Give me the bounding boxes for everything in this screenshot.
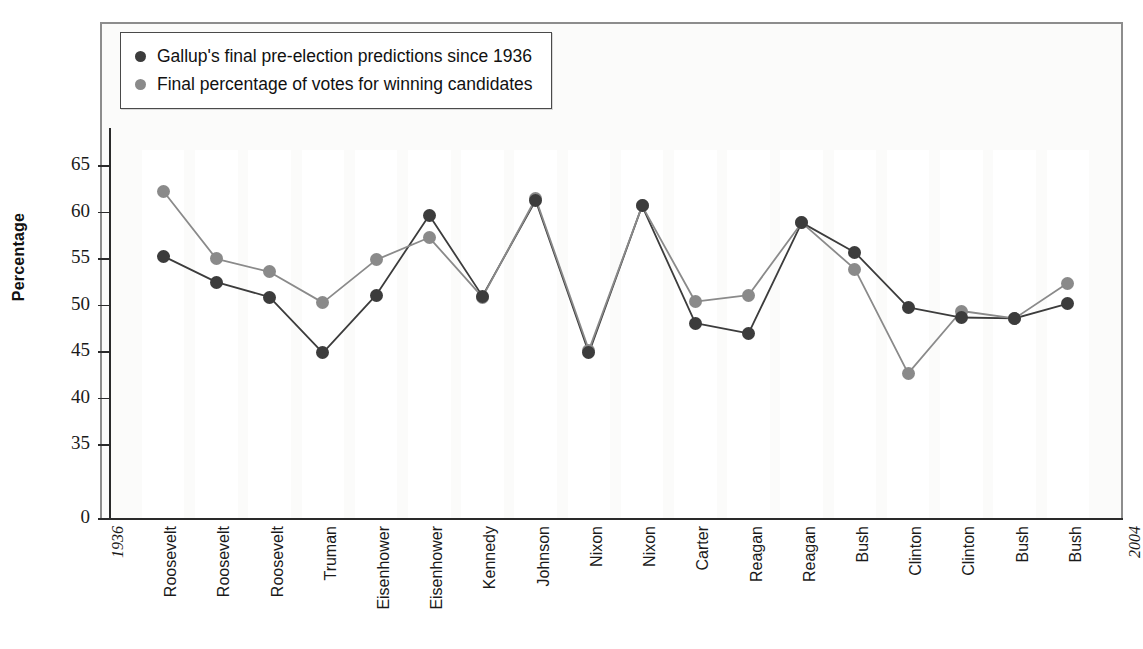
data-point-marker [370,253,383,266]
data-point-marker [210,276,223,289]
data-point-marker [742,327,755,340]
background-stripe [1047,150,1090,518]
x-axis-tick-label: Reagan [748,526,766,649]
x-axis-tick-label: Bush [1067,526,1085,649]
chart-figure: Percentage 035404550556065 1936Roosevelt… [0,0,1143,649]
data-point-marker [1008,312,1021,325]
y-axis-tick-mark [98,305,109,307]
background-stripe [780,150,823,518]
background-stripe [248,150,291,518]
data-point-marker [263,291,276,304]
legend-entry-label: Final percentage of votes for winning ca… [157,74,533,95]
x-axis-tick-label: Roosevelt [269,526,287,649]
x-axis-tick-label: Reagan [801,526,819,649]
x-axis-end-year-label: 2004 [1126,526,1143,649]
x-axis-tick-label: Johnson [535,526,553,649]
legend-entry: Final percentage of votes for winning ca… [135,70,533,98]
y-axis-tick-label: 50 [44,293,90,315]
y-axis-tick-label: 35 [44,432,90,454]
background-stripe [834,150,877,518]
legend-entry-label: Gallup's final pre-election predictions … [157,46,532,67]
chart-legend: Gallup's final pre-election predictions … [120,32,552,109]
background-stripe [887,150,930,518]
data-point-marker [476,290,489,303]
data-point-marker [529,194,542,207]
y-axis-tick-label: 40 [44,386,90,408]
background-stripe [195,150,238,518]
y-axis-line [109,128,111,519]
y-axis-tick-mark [98,518,109,520]
y-axis-tick-mark [98,258,109,260]
x-axis-tick-label: Truman [322,526,340,649]
y-axis-tick-label: 55 [44,246,90,268]
data-point-marker [157,250,170,263]
y-axis-tick-label: 0 [44,506,90,528]
data-point-marker [423,231,436,244]
data-point-marker [689,295,702,308]
x-axis-tick-label: Clinton [907,526,925,649]
x-axis-tick-label: Eisenhower [428,526,446,649]
data-point-marker [689,317,702,330]
y-axis-tick-mark [98,212,109,214]
x-axis-tick-label: Kennedy [481,526,499,649]
data-point-marker [955,311,968,324]
x-axis-line [98,518,1123,520]
legend-entry: Gallup's final pre-election predictions … [135,42,533,70]
data-point-marker [1061,277,1074,290]
x-axis-tick-label: Roosevelt [215,526,233,649]
data-point-marker [157,185,170,198]
legend-dot-dark [135,51,146,62]
background-stripe [568,150,611,518]
background-stripe [408,150,451,518]
background-stripe [940,150,983,518]
y-axis-title: Percentage [10,192,28,322]
plot-background-stripes [110,150,1121,518]
background-stripe [355,150,398,518]
background-stripe [302,150,345,518]
background-stripe [674,150,717,518]
x-axis-tick-label: Nixon [588,526,606,649]
y-axis-tick-mark [98,398,109,400]
data-point-marker [902,367,915,380]
background-stripe [993,150,1036,518]
y-axis-tick-label: 45 [44,339,90,361]
x-axis-tick-label: Bush [1014,526,1032,649]
background-stripe [461,150,504,518]
data-point-marker [636,199,649,212]
data-point-marker [370,289,383,302]
x-axis-tick-label: Roosevelt [162,526,180,649]
x-axis-start-year-label: 1936 [109,526,127,649]
data-point-marker [902,301,915,314]
x-axis-tick-label: Carter [694,526,712,649]
y-axis-tick-label: 65 [44,153,90,175]
legend-dot-gray [135,79,146,90]
background-stripe [142,150,185,518]
x-axis-tick-label: Eisenhower [375,526,393,649]
y-axis-tick-mark [98,351,109,353]
x-axis-tick-label: Clinton [960,526,978,649]
x-axis-tick-label: Bush [854,526,872,649]
y-axis-tick-label: 60 [44,200,90,222]
data-point-marker [742,289,755,302]
y-axis-tick-mark [98,444,109,446]
x-axis-tick-label: Nixon [641,526,659,649]
y-axis-tick-mark [98,165,109,167]
data-point-marker [423,209,436,222]
